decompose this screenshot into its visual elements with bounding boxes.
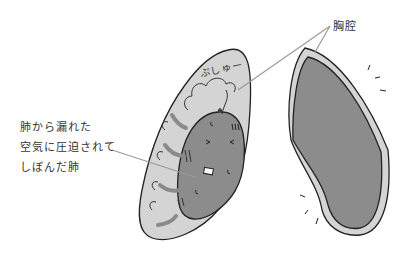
label-line-2: 空気に圧迫されて	[20, 140, 116, 160]
label-collapsed-lung: 肺から漏れた 空気に圧迫されて しぼんだ肺	[20, 120, 116, 180]
normal-lung	[293, 57, 382, 228]
label-line-1: 肺から漏れた	[20, 120, 116, 140]
label-thoracic-cavity: 胸腔	[333, 19, 357, 35]
label-line-3: しぼんだ肺	[20, 160, 116, 180]
